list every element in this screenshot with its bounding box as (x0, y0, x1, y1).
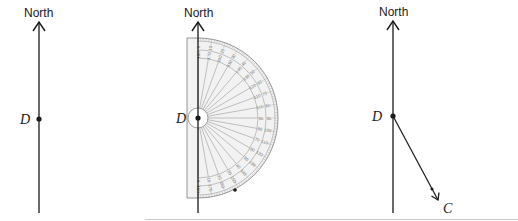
bearing-mark-dot (431, 188, 434, 191)
svg-text:90: 90 (267, 116, 272, 121)
north-label: North (24, 6, 53, 20)
protractor: 0102030405060708090100110120130140150160… (187, 38, 278, 198)
point-d (195, 115, 200, 120)
bearing-diagram: North D North 01020304050607080901001101… (0, 0, 518, 221)
point-d-label: D (19, 112, 30, 127)
panel-step-2: North 0102030405060708090100110120130140… (175, 6, 278, 213)
north-label: North (379, 5, 408, 19)
bearing-line-dc (393, 116, 438, 200)
panel-step-3: North D C (371, 5, 453, 216)
point-d (36, 116, 41, 121)
point-d (390, 113, 395, 118)
bearing-mark-dot (233, 188, 237, 192)
point-c-label: C (443, 201, 453, 216)
svg-text:90: 90 (259, 116, 264, 121)
north-label: North (184, 6, 213, 20)
point-d-label: D (175, 111, 186, 126)
point-d-label: D (371, 109, 382, 124)
panel-step-1: North D (19, 6, 53, 213)
